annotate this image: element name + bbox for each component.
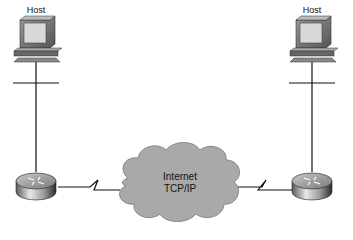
router-left-icon	[16, 173, 56, 200]
host-right-label: Host	[294, 5, 330, 15]
router-right-icon	[292, 173, 332, 200]
diagram-canvas	[0, 0, 353, 240]
serial-link-right	[236, 180, 292, 190]
cloud-label: Internet TCP/IP	[150, 171, 210, 195]
network-diagram: Host Host Internet TCP/IP	[0, 0, 353, 240]
host-right-computer-icon	[290, 16, 338, 62]
host-left-computer-icon	[14, 16, 62, 62]
cloud-label-line1: Internet	[150, 171, 210, 183]
ethernet-link-left	[13, 62, 59, 172]
serial-link-left	[58, 180, 120, 190]
host-left-label: Host	[18, 5, 54, 15]
cloud-label-line2: TCP/IP	[150, 183, 210, 195]
ethernet-link-right	[289, 62, 335, 172]
